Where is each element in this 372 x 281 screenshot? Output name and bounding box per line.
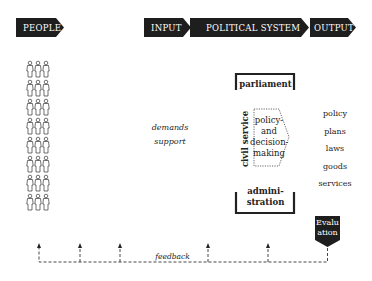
people-icons: [27, 61, 49, 210]
outputs-list: policy plans laws goods services: [310, 105, 360, 193]
core-line-4: making: [250, 148, 288, 159]
administration-label: admini- stration: [238, 186, 293, 208]
output-item: policy: [310, 105, 360, 123]
output-item: laws: [310, 140, 360, 158]
evaluation-line-2: ation: [315, 228, 340, 238]
core-line-3: decision-: [250, 137, 288, 148]
parliament-label: parliament: [238, 79, 293, 89]
evaluation-line-1: Evalu: [315, 218, 340, 228]
support-label: support: [150, 137, 190, 146]
core-line-1: policy-: [250, 115, 288, 126]
policy-making-label: policy- and decision- making: [250, 115, 288, 159]
admin-line-1: admini-: [238, 186, 293, 197]
output-item: goods: [310, 158, 360, 176]
output-item: plans: [310, 123, 360, 141]
core-line-2: and: [250, 126, 288, 137]
demands-label: demands: [150, 123, 190, 132]
civil-service-label: civil service: [240, 107, 250, 171]
evaluation-label: Evalu ation: [315, 218, 340, 238]
feedback-label: feedback: [150, 252, 195, 261]
admin-line-2: stration: [238, 197, 293, 208]
output-item: services: [310, 175, 360, 193]
